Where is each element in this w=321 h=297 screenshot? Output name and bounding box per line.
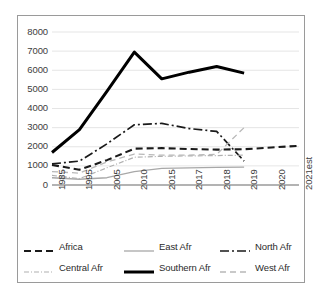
y-tick-label: 7000 — [14, 45, 48, 56]
legend-key-icon — [124, 263, 154, 273]
legend-item-north-afr[interactable]: North Afr — [220, 236, 292, 257]
legend-key-icon — [220, 242, 250, 252]
x-tick-label: 2018 — [221, 169, 232, 190]
x-tick-label: 2005 — [111, 169, 122, 190]
legend-item-label: West Afr — [255, 262, 290, 273]
legend-item-label: North Afr — [255, 241, 292, 252]
legend-item-central-afr[interactable]: Central Afr — [24, 257, 103, 278]
x-tick-label: 1995 — [83, 169, 94, 190]
y-tick-label: 8000 — [14, 26, 48, 37]
legend-row: AfricaEast AfrNorth Afr — [24, 236, 300, 257]
legend-item-west-afr[interactable]: West Afr — [220, 257, 290, 278]
y-tick-label: 2000 — [14, 140, 48, 151]
y-tick-label: 1000 — [14, 159, 48, 170]
x-tick-label: 2017 — [193, 169, 204, 190]
y-tick-label: 0 — [14, 179, 48, 190]
x-tick-label: 2015 — [166, 169, 177, 190]
x-tick-label: 2019 — [248, 169, 259, 190]
x-tick-label: 2021est — [303, 157, 314, 190]
legend-item-label: Southern Afr — [159, 262, 211, 273]
legend-key-icon — [124, 242, 154, 252]
x-tick-label: 1985 — [56, 169, 67, 190]
legend-item-label: Africa — [59, 241, 83, 252]
y-tick-label: 3000 — [14, 121, 48, 132]
y-tick-label: 5000 — [14, 83, 48, 94]
y-tick-label: 4000 — [14, 102, 48, 113]
legend-key-icon — [220, 263, 250, 273]
x-tick-label: 2020 — [276, 169, 287, 190]
chart-legend: AfricaEast AfrNorth AfrCentral AfrSouthe… — [24, 236, 300, 278]
legend-item-africa[interactable]: Africa — [24, 236, 83, 257]
chart-container: 010002000300040005000600070008000 198519… — [0, 0, 321, 297]
legend-key-icon — [24, 263, 54, 273]
legend-item-east-afr[interactable]: East Afr — [124, 236, 191, 257]
x-tick-label: 2010 — [138, 169, 149, 190]
legend-item-label: East Afr — [159, 241, 191, 252]
legend-key-icon — [24, 242, 54, 252]
legend-item-label: Central Afr — [59, 262, 103, 273]
legend-item-southern-afr[interactable]: Southern Afr — [124, 257, 211, 278]
legend-row: Central AfrSouthern AfrWest Afr — [24, 257, 300, 278]
y-tick-label: 6000 — [14, 64, 48, 75]
